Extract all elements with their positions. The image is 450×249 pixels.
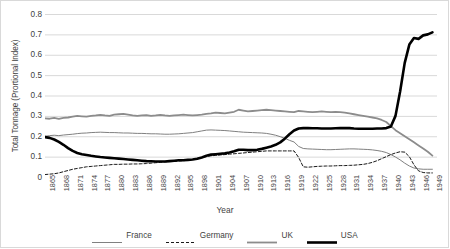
y-axis-tick-label: 0.8	[16, 10, 42, 19]
y-axis-tick-label: 0	[16, 173, 42, 182]
x-axis-tick-label: 1874	[91, 175, 99, 205]
series-lines	[45, 32, 432, 174]
x-axis-tick-label: 1919	[298, 175, 306, 205]
x-axis-tick-label: 1916	[284, 175, 292, 205]
y-axis-tick-label: 0.4	[16, 91, 42, 100]
plot-area	[45, 14, 437, 177]
series-line-usa	[45, 32, 432, 161]
x-axis-tick-label: 1907	[243, 175, 251, 205]
x-axis-tick-label: 1880	[118, 175, 126, 205]
x-axis-tick-label: 1913	[270, 175, 278, 205]
legend-label: Germany	[200, 231, 234, 240]
x-axis-tick-label: 1922	[312, 175, 320, 205]
chart-legend: FranceGermanyUKUSA	[0, 226, 450, 244]
y-axis-tick-label: 0.1	[16, 152, 42, 161]
series-line-germany	[45, 151, 432, 175]
x-axis-tick-label: 1895	[187, 175, 195, 205]
y-axis-tick-label: 0.7	[16, 30, 42, 39]
x-axis-tick-label: 1931	[353, 175, 361, 205]
x-axis-tick-label: 1868	[63, 175, 71, 205]
legend-label: USA	[341, 231, 358, 240]
x-axis-tick-label: 1925	[326, 175, 334, 205]
x-axis-tick-label: 1883	[132, 175, 140, 205]
legend-item-usa[interactable]: USA	[307, 231, 358, 240]
x-axis-tick-label: 1892	[174, 175, 182, 205]
x-axis-tick-label: 1937	[381, 175, 389, 205]
x-axis-tick-labels: 1865186818711874187718801883188618891892…	[45, 177, 437, 207]
x-axis-tick-label: 1889	[160, 175, 168, 205]
y-axis-tick-label: 0.5	[16, 71, 42, 80]
legend-swatch-icon	[92, 232, 122, 239]
x-axis-tick-label: 1901	[215, 175, 223, 205]
legend-item-france[interactable]: France	[92, 231, 151, 240]
x-axis-title: Year	[0, 205, 450, 215]
x-axis-tick-label: 1946	[423, 175, 431, 205]
x-axis-tick-label: 1943	[409, 175, 417, 205]
legend-item-uk[interactable]: UK	[247, 231, 292, 240]
x-axis-tick-label: 1904	[229, 175, 237, 205]
y-axis-tick-label: 0.2	[16, 132, 42, 141]
gridlines	[45, 15, 437, 178]
legend-label: UK	[281, 231, 292, 240]
chart-container: Total Tonnage (Prortional Index) 0.80.70…	[0, 0, 450, 249]
x-axis-tick-label: 1871	[77, 175, 85, 205]
x-axis-tick-label: 1940	[395, 175, 403, 205]
legend-label: France	[126, 231, 151, 240]
legend-swatch-icon	[166, 232, 196, 239]
legend-swatch-icon	[307, 232, 337, 239]
x-axis-tick-label: 1865	[49, 175, 57, 205]
y-axis-tick-label: 0.6	[16, 50, 42, 59]
legend-swatch-icon	[247, 232, 277, 239]
x-axis-tick-label: 1910	[257, 175, 265, 205]
x-axis-tick-label: 1928	[340, 175, 348, 205]
legend-item-germany[interactable]: Germany	[166, 231, 234, 240]
x-axis-tick-label: 1877	[104, 175, 112, 205]
plot-svg	[45, 14, 437, 177]
x-axis-tick-label: 1934	[367, 175, 375, 205]
x-axis-tick-label: 1886	[146, 175, 154, 205]
x-axis-tick-label: 1949	[436, 175, 444, 205]
x-axis-tick-label: 1898	[201, 175, 209, 205]
y-axis-tick-label: 0.3	[16, 111, 42, 120]
